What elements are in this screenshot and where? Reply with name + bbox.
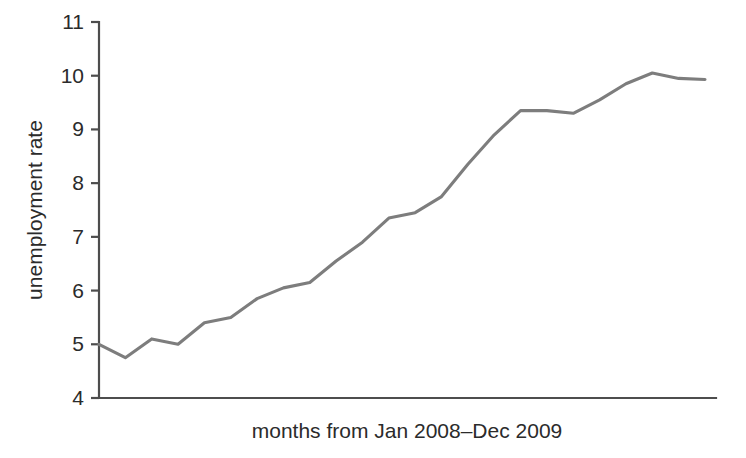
y-axis-tick-label: 6 — [72, 279, 84, 302]
y-axis-tick-labels: 4567891011 — [61, 10, 85, 409]
y-axis-tick-label: 7 — [72, 225, 84, 248]
y-axis-group: 4567891011 — [61, 10, 99, 409]
unemployment-rate-line-chart: 4567891011 months from Jan 2008–Dec 2009… — [0, 0, 746, 458]
x-axis-title: months from Jan 2008–Dec 2009 — [252, 419, 563, 442]
y-axis-tick-label: 9 — [72, 117, 84, 140]
unemployment-rate-series-line — [99, 73, 705, 358]
y-axis-tick-label: 4 — [72, 386, 84, 409]
y-axis-tick-marks — [91, 22, 99, 398]
y-axis-tick-label: 5 — [72, 332, 84, 355]
y-axis-tick-label: 11 — [62, 10, 84, 33]
chart-canvas: 4567891011 months from Jan 2008–Dec 2009… — [0, 0, 746, 458]
y-axis-tick-label: 8 — [72, 171, 84, 194]
y-axis-title: unemployment rate — [23, 120, 46, 300]
y-axis-tick-label: 10 — [61, 64, 84, 87]
